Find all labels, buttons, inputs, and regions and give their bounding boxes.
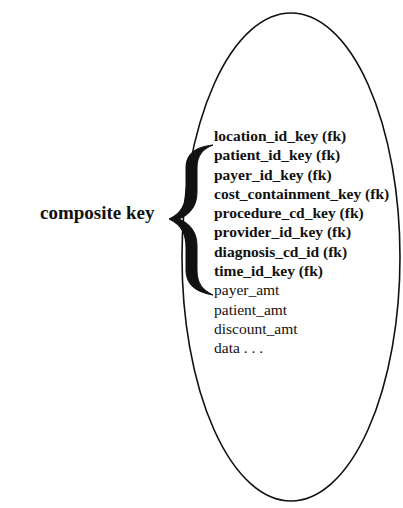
composite-key-label: composite key xyxy=(40,202,155,224)
key-field: patient_id_key (fk) xyxy=(214,145,389,164)
key-field: cost_containment_key (fk) xyxy=(214,184,389,203)
key-field: location_id_key (fk) xyxy=(214,126,389,145)
key-field: diagnosis_cd_id (fk) xyxy=(214,242,389,261)
curly-brace-icon xyxy=(169,145,213,295)
attribute-field: patient_amt xyxy=(214,300,389,319)
key-field: payer_id_key (fk) xyxy=(214,165,389,184)
key-field: time_id_key (fk) xyxy=(214,261,389,280)
key-field: provider_id_key (fk) xyxy=(214,222,389,241)
attribute-field: payer_amt xyxy=(214,280,389,299)
entity-field-list: location_id_key (fk) patient_id_key (fk)… xyxy=(214,126,389,358)
attribute-field: discount_amt xyxy=(214,319,389,338)
key-field: procedure_cd_key (fk) xyxy=(214,203,389,222)
attribute-field: data . . . xyxy=(214,338,389,357)
